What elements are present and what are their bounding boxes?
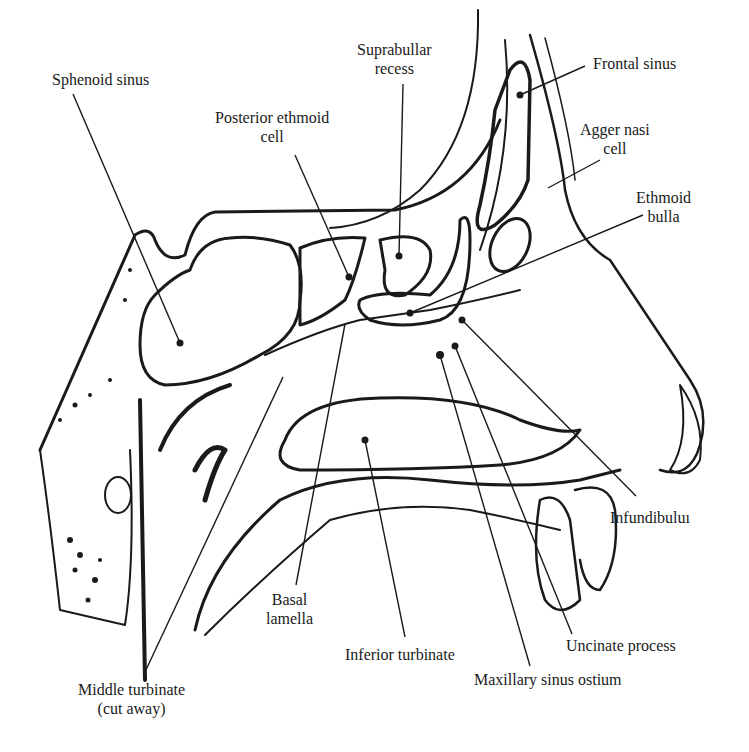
pointer-line-agger-nasi-cell <box>548 160 600 188</box>
label-frontal-sinus: Frontal sinus <box>593 54 676 73</box>
label-text: Ethmoid <box>636 188 691 207</box>
figure-caption-cutoff <box>40 738 740 752</box>
label-text: Frontal sinus <box>593 54 676 73</box>
pointer-line-uncinate-process <box>455 346 572 634</box>
label-basal-lamella: Basal lamella <box>266 590 313 628</box>
label-text: cell <box>580 139 650 158</box>
label-text: Agger nasi <box>580 120 650 139</box>
label-text: bulla <box>636 207 691 226</box>
pointer-line-sphenoid-sinus <box>73 94 180 343</box>
label-agger-nasi-cell: Agger nasi cell <box>580 120 650 158</box>
label-text: Sphenoid sinus <box>52 70 149 89</box>
pointer-line-posterior-ethmoid-cell <box>295 155 349 277</box>
label-infundibulum: Infundibuluı <box>610 508 690 527</box>
label-uncinate-process: Uncinate process <box>566 636 676 655</box>
pointer-line-basal-lamella <box>296 324 345 585</box>
label-sphenoid-sinus: Sphenoid sinus <box>52 70 149 89</box>
label-text: Uncinate process <box>566 636 676 655</box>
label-posterior-ethmoid-cell: Posterior ethmoid cell <box>215 108 329 146</box>
nasal-anatomy-diagram: Sphenoid sinus Posterior ethmoid cell Su… <box>0 0 749 752</box>
label-text: Suprabullar <box>357 40 432 59</box>
label-ethmoid-bulla: Ethmoid bulla <box>636 188 691 226</box>
label-text: Maxillary sinus ostium <box>474 670 622 689</box>
label-text: cell <box>215 127 329 146</box>
pointer-line-inferior-turbinate <box>365 440 405 637</box>
pointer-line-suprabullar-recess <box>399 84 403 256</box>
pointer-line-middle-turbinate <box>145 377 283 672</box>
label-text: (cut away) <box>78 699 185 718</box>
label-inferior-turbinate: Inferior turbinate <box>345 645 455 664</box>
pointer-line-maxillary-sinus-ostium <box>440 355 530 666</box>
label-middle-turbinate: Middle turbinate (cut away) <box>78 680 185 718</box>
label-text: lamella <box>266 609 313 628</box>
label-text: Inferior turbinate <box>345 645 455 664</box>
label-suprabullar-recess: Suprabullar recess <box>357 40 432 78</box>
label-text: Posterior ethmoid <box>215 108 329 127</box>
label-text: Basal <box>266 590 313 609</box>
pointer-line-ethmoid-bulla <box>410 215 643 313</box>
label-text: Infundibuluı <box>610 508 690 527</box>
pointer-line-frontal-sinus <box>520 66 585 95</box>
label-text: recess <box>357 59 432 78</box>
label-text: Middle turbinate <box>78 680 185 699</box>
label-maxillary-sinus-ostium: Maxillary sinus ostium <box>474 670 622 689</box>
pointer-line-infundibulum <box>462 320 636 496</box>
